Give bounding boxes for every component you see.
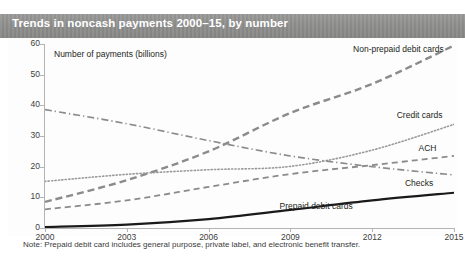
plot-area <box>45 44 454 228</box>
chart-note: Note: Prepaid debit card includes genera… <box>23 240 453 250</box>
x-tick-mark <box>45 228 46 232</box>
series-label: Prepaid debit cards <box>279 201 352 211</box>
y-tick-label: 50 <box>18 70 40 79</box>
series-line <box>45 193 454 227</box>
series-label: Credit cards <box>397 110 443 120</box>
y-tick-mark <box>40 167 44 168</box>
y-tick-label: 20 <box>18 162 40 171</box>
y-tick-mark <box>40 75 44 76</box>
y-tick-mark <box>40 105 44 106</box>
y-tick-label: 30 <box>18 131 40 140</box>
x-axis-line <box>44 228 455 229</box>
chart-title-band: Trends in noncash payments 2000–15, by n… <box>0 14 465 38</box>
x-tick-mark <box>372 228 373 232</box>
y-tick-mark <box>40 228 44 229</box>
series-line <box>45 110 454 175</box>
page-title: Trends in noncash payments 2000–15, by n… <box>12 17 288 29</box>
y-tick-mark <box>40 44 44 45</box>
x-tick-mark <box>127 228 128 232</box>
x-tick-mark <box>290 228 291 232</box>
series-label: Checks <box>405 178 433 188</box>
y-tick-label: 10 <box>18 192 40 201</box>
y-tick-label: 0 <box>18 223 40 232</box>
y-tick-mark <box>40 136 44 137</box>
series-lines-svg <box>45 44 454 228</box>
series-label: Non-prepaid debit cards <box>353 44 444 54</box>
series-line <box>45 124 454 181</box>
series-label: ACH <box>419 143 437 153</box>
x-tick-mark <box>454 228 455 232</box>
series-line <box>45 156 454 209</box>
y-tick-label: 60 <box>18 39 40 48</box>
y-tick-label: 40 <box>18 100 40 109</box>
series-line <box>45 46 454 202</box>
y-tick-mark <box>40 197 44 198</box>
plot-frame: Number of payments (billions) 0102030405… <box>8 38 457 236</box>
x-tick-mark <box>209 228 210 232</box>
figure-container: Trends in noncash payments 2000–15, by n… <box>0 0 465 270</box>
